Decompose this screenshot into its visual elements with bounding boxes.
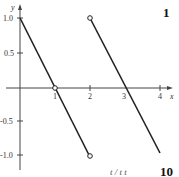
x-tick-label: 4 bbox=[158, 92, 162, 101]
y-tick-label: -1.0 bbox=[0, 151, 13, 160]
open-point-marker bbox=[88, 154, 93, 159]
exercise-number: 1 bbox=[163, 5, 170, 20]
series-segment-2 bbox=[88, 16, 160, 153]
x-tick-label: 3 bbox=[122, 92, 126, 101]
y-axis-arrow-icon bbox=[18, 4, 22, 10]
x-axis-label: x bbox=[169, 92, 174, 101]
y-tick-label: -0.5 bbox=[0, 117, 13, 126]
x-tick-label: 1 bbox=[53, 92, 57, 101]
footer-fragment: t / t t bbox=[110, 167, 127, 177]
y-axis-label: y bbox=[10, 3, 15, 12]
x-axis-arrow-icon bbox=[167, 86, 173, 90]
axes: y x 1.0 0.5 -0.5 -1.0 1 2 3 4 bbox=[0, 3, 174, 170]
open-point-marker bbox=[88, 16, 93, 21]
footer-page-number: 10 bbox=[160, 164, 173, 177]
y-tick-label: 0.5 bbox=[4, 49, 14, 58]
x-tick-label: 2 bbox=[88, 92, 92, 101]
open-point-marker bbox=[53, 86, 58, 91]
y-tick-label: 1.0 bbox=[3, 14, 13, 23]
function-graph: 1 y x 1.0 0.5 -0.5 -1.0 1 2 3 4 t / t t bbox=[0, 0, 179, 177]
